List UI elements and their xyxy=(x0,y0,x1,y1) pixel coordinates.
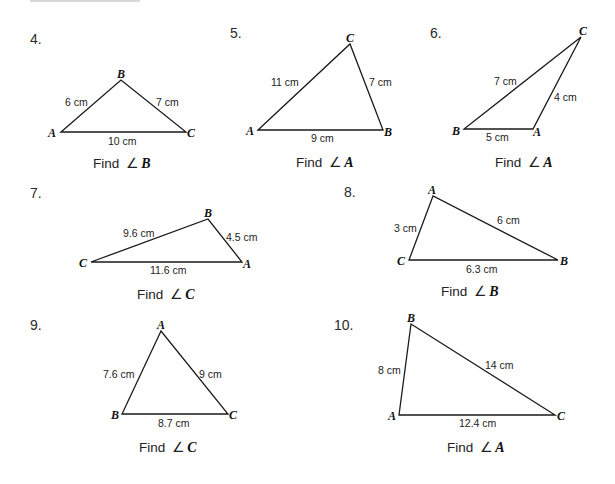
vertex-label-a: A xyxy=(245,124,254,138)
vertex-label-b: B xyxy=(383,125,392,139)
find-angle-prompt: Find∠A xyxy=(495,155,553,170)
side-length-ac: 12.4 cm xyxy=(459,417,497,429)
side-length-ac: 11 cm xyxy=(271,76,299,88)
find-label: Find xyxy=(296,155,322,170)
find-angle-prompt: Find∠A xyxy=(447,440,505,455)
triangle-shape xyxy=(91,219,242,262)
find-label: Find xyxy=(495,155,521,170)
side-length-ab: 5 cm xyxy=(486,131,509,143)
find-angle-prompt: Find∠C xyxy=(137,287,195,302)
angle-vertex: C xyxy=(187,440,197,455)
problem-6: 6. A B C 7 cm 4 cm 5 cm Find∠A xyxy=(430,24,588,170)
angle-symbol: ∠ xyxy=(480,440,493,455)
angle-symbol: ∠ xyxy=(329,155,342,170)
side-length-ab: 7.6 cm xyxy=(103,368,135,380)
problem-number: 9. xyxy=(30,317,42,333)
vertex-label-b: B xyxy=(451,124,460,138)
problem-number: 10. xyxy=(334,317,353,333)
side-length-ab: 8 cm xyxy=(378,364,401,376)
find-label: Find xyxy=(447,440,473,455)
triangle-shape xyxy=(409,196,558,260)
find-label: Find xyxy=(139,440,165,455)
angle-symbol: ∠ xyxy=(126,156,139,171)
triangle-shape xyxy=(399,324,555,415)
vertex-label-c: C xyxy=(346,31,355,45)
vertex-label-c: C xyxy=(397,254,406,268)
vertex-label-b: B xyxy=(559,254,568,268)
vertex-label-a: A xyxy=(156,318,165,332)
vertex-label-a: A xyxy=(242,257,251,271)
problem-8: 8. A B C 3 cm 6 cm 6.3 cm Find∠B xyxy=(344,183,568,299)
side-length-bc: 8.7 cm xyxy=(158,417,190,429)
problem-number: 4. xyxy=(30,31,42,47)
find-label: Find xyxy=(137,287,163,302)
side-length-ac: 11.6 cm xyxy=(150,264,187,276)
find-label: Find xyxy=(93,156,119,171)
problem-7: 7. A B C 9.6 cm 4.5 cm 11.6 cm Find∠C xyxy=(30,185,258,302)
vertex-label-c: C xyxy=(557,409,566,423)
angle-symbol: ∠ xyxy=(170,287,183,302)
triangle-shape xyxy=(464,37,581,129)
find-angle-prompt: Find∠B xyxy=(441,284,499,299)
vertex-label-a: A xyxy=(387,409,396,423)
vertex-label-a: A xyxy=(427,183,436,197)
side-length-ac: 3 cm xyxy=(394,222,417,234)
angle-symbol: ∠ xyxy=(528,155,541,170)
angle-symbol: ∠ xyxy=(172,440,185,455)
vertex-label-c: C xyxy=(187,126,196,140)
side-length-bc: 7 cm xyxy=(156,96,179,108)
problem-4: 4. A B C 6 cm 7 cm 10 cm Find∠B xyxy=(30,31,196,171)
vertex-label-c: C xyxy=(579,24,588,38)
vertex-label-b: B xyxy=(110,408,119,422)
angle-vertex: A xyxy=(343,155,353,170)
problem-number: 6. xyxy=(430,25,442,41)
vertex-label-b: B xyxy=(116,67,125,81)
side-length-ab: 6 cm xyxy=(65,96,88,108)
vertex-label-a: A xyxy=(532,125,541,139)
problem-9: 9. A B C 7.6 cm 9 cm 8.7 cm Find∠C xyxy=(30,317,238,455)
find-angle-prompt: Find∠A xyxy=(296,155,354,170)
vertex-label-c: C xyxy=(229,408,238,422)
angle-vertex: B xyxy=(140,156,150,171)
find-angle-prompt: Find∠C xyxy=(139,440,197,455)
angle-vertex: A xyxy=(542,155,552,170)
problem-10: 10. A B C 8 cm 14 cm 12.4 cm Find∠A xyxy=(334,311,566,455)
side-length-bc: 9.6 cm xyxy=(123,227,155,239)
side-length-ab: 9 cm xyxy=(311,132,334,144)
problem-5: 5. A B C 11 cm 7 cm 9 cm Find∠A xyxy=(230,25,392,170)
side-length-bc: 6.3 cm xyxy=(466,263,498,275)
side-length-ac: 10 cm xyxy=(108,135,137,147)
problem-number: 8. xyxy=(344,184,356,200)
problem-number: 7. xyxy=(30,185,42,201)
angle-vertex: B xyxy=(488,284,498,299)
angle-vertex: A xyxy=(494,440,504,455)
triangle-exercises-figure: 4. A B C 6 cm 7 cm 10 cm Find∠B 5. A B C… xyxy=(0,0,615,484)
side-length-ab: 4.5 cm xyxy=(226,231,258,243)
side-length-bc: 7 cm xyxy=(494,75,517,87)
angle-vertex: C xyxy=(185,287,195,302)
side-length-bc: 14 cm xyxy=(485,359,514,371)
problem-number: 5. xyxy=(230,25,242,41)
vertex-label-b: B xyxy=(406,311,415,325)
side-length-ac: 4 cm xyxy=(554,91,577,103)
side-length-ac: 9 cm xyxy=(199,368,222,380)
vertex-label-b: B xyxy=(203,206,212,220)
find-label: Find xyxy=(441,284,467,299)
angle-symbol: ∠ xyxy=(474,284,487,299)
side-length-bc: 7 cm xyxy=(369,76,392,88)
side-length-ab: 6 cm xyxy=(497,214,520,226)
find-angle-prompt: Find∠B xyxy=(93,156,151,171)
vertex-label-a: A xyxy=(47,126,56,140)
vertex-label-c: C xyxy=(79,256,88,270)
